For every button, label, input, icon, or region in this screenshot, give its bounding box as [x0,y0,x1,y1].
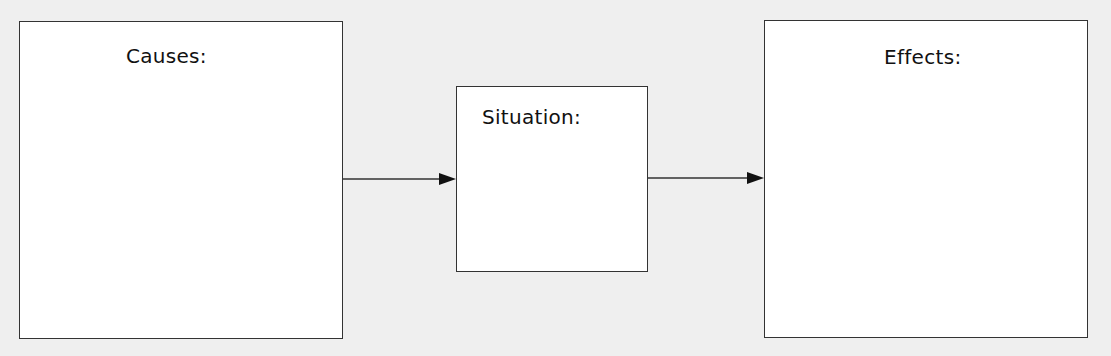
arrow-causes-to-situation [343,173,456,185]
arrow-situation-to-effects [648,172,764,184]
connector-arrows [0,0,1111,356]
